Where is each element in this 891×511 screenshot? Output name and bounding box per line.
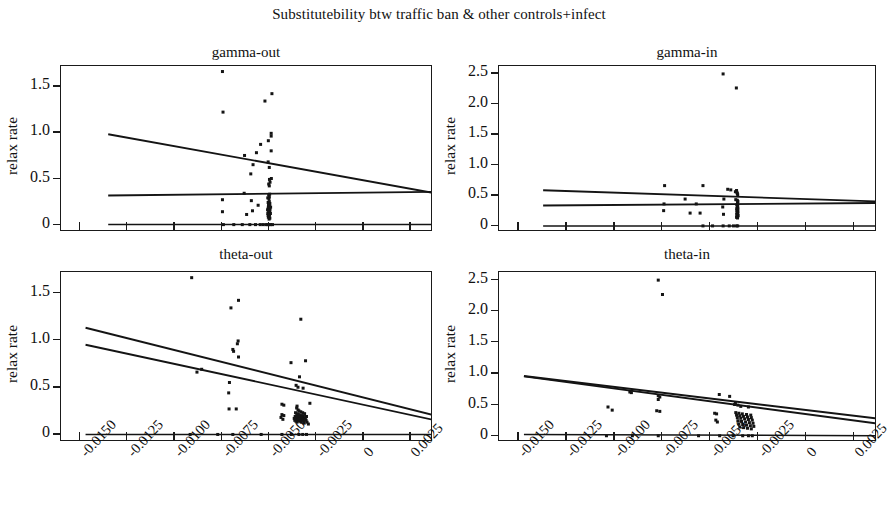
data-point (241, 223, 244, 226)
x-tick (79, 432, 80, 441)
data-point (750, 427, 753, 430)
data-point (630, 391, 633, 394)
x-tick (126, 222, 127, 231)
data-point (701, 184, 704, 187)
data-point (252, 163, 255, 166)
data-point (248, 223, 251, 226)
y-axis-label: relax rate (3, 66, 21, 226)
x-tick (517, 432, 518, 441)
trend-line-lower-fit (524, 376, 876, 423)
x-tick (565, 222, 566, 231)
trend-line-lower-fit (86, 345, 432, 420)
panel-title: theta-out (60, 246, 432, 263)
y-tick (53, 224, 60, 225)
data-point (307, 423, 310, 426)
panel-title: gamma-out (60, 44, 432, 61)
data-point (732, 224, 735, 227)
data-point (222, 223, 225, 226)
data-point (748, 421, 751, 424)
data-point (699, 212, 702, 215)
data-point (289, 361, 292, 364)
data-point (735, 86, 738, 89)
data-point (254, 223, 257, 226)
y-tick (53, 339, 60, 340)
data-point (250, 199, 253, 202)
x-tick (268, 222, 269, 231)
y-tick (53, 178, 60, 179)
data-point (260, 433, 263, 436)
data-point (296, 386, 299, 389)
data-point (722, 224, 725, 227)
data-point (249, 172, 252, 175)
trend-line-upper-fit (86, 328, 432, 415)
data-point (271, 223, 274, 226)
y-tick (491, 103, 498, 104)
data-point (232, 350, 235, 353)
y-tick (491, 225, 498, 226)
x-tick (853, 222, 854, 231)
y-tick (491, 194, 498, 195)
data-point (663, 202, 666, 205)
y-tick (491, 435, 498, 436)
data-point (237, 356, 240, 359)
y-axis-label: relax rate (3, 274, 21, 434)
x-tick (805, 222, 806, 231)
data-layer (499, 272, 876, 441)
y-tick (53, 433, 60, 434)
data-point (657, 398, 660, 401)
data-point (695, 202, 698, 205)
data-point (697, 434, 700, 437)
data-point (268, 184, 271, 187)
data-point (736, 404, 739, 407)
data-point (657, 434, 660, 437)
data-point (655, 409, 658, 412)
data-point (722, 213, 725, 216)
data-point (221, 70, 224, 73)
data-point (237, 339, 240, 342)
x-tick (613, 432, 614, 441)
data-point (747, 406, 750, 409)
data-point (739, 405, 742, 408)
y-tick (491, 279, 498, 280)
data-point (222, 111, 225, 114)
data-point (263, 100, 266, 103)
data-point (689, 212, 692, 215)
data-point (298, 375, 301, 378)
data-point (661, 293, 664, 296)
x-tick (565, 432, 566, 441)
data-point (267, 139, 270, 142)
x-tick (126, 432, 127, 441)
data-point (662, 209, 665, 212)
data-point (752, 422, 755, 425)
y-tick (491, 133, 498, 134)
data-point (751, 419, 754, 422)
data-point (303, 412, 306, 415)
data-point (721, 205, 724, 208)
y-tick (491, 164, 498, 165)
data-point (190, 276, 193, 279)
x-tick (315, 222, 316, 231)
x-tick (173, 222, 174, 231)
data-point (305, 433, 308, 436)
data-point (715, 412, 718, 415)
data-point (245, 213, 248, 216)
data-point (268, 218, 271, 221)
data-point (716, 421, 719, 424)
data-point (308, 402, 311, 405)
data-point (267, 197, 270, 200)
x-tick (409, 432, 410, 441)
data-layer (61, 272, 432, 441)
data-point (747, 434, 750, 437)
data-point (718, 393, 721, 396)
data-point (200, 368, 203, 371)
data-point (733, 403, 736, 406)
data-point (236, 342, 239, 345)
data-point (216, 433, 219, 436)
data-point (227, 391, 230, 394)
x-tick (517, 222, 518, 231)
data-point (232, 223, 235, 226)
data-point (281, 418, 284, 421)
plot-area-bottom-right (498, 271, 876, 441)
data-point (747, 418, 750, 421)
